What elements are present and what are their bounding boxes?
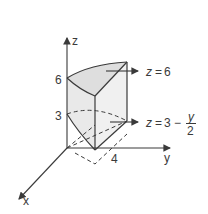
tick-z-3: 3 [55, 109, 62, 123]
svg-text:2: 2 [187, 124, 194, 138]
bottom-surface-equation: z = 3 − y 2 [145, 110, 196, 138]
y-axis-label: y [164, 151, 170, 165]
x-axis [19, 148, 67, 199]
solid-region [67, 62, 127, 150]
svg-text:6: 6 [164, 65, 171, 79]
tick-y-4: 4 [111, 152, 118, 166]
svg-text:z: z [145, 116, 152, 130]
svg-text:=: = [155, 116, 162, 130]
top-surface-equation: z = 6 [145, 65, 171, 79]
svg-text:=: = [155, 65, 162, 79]
z-axis-label: z [72, 34, 78, 48]
diagram-canvas: z y x 6 3 4 z = 6 z = 3 − y 2 [0, 0, 208, 214]
tick-z-6: 6 [55, 73, 62, 87]
svg-text:z: z [145, 65, 152, 79]
x-axis-label: x [23, 194, 29, 208]
svg-text:y: y [187, 110, 195, 124]
svg-text:3 −: 3 − [164, 116, 181, 130]
